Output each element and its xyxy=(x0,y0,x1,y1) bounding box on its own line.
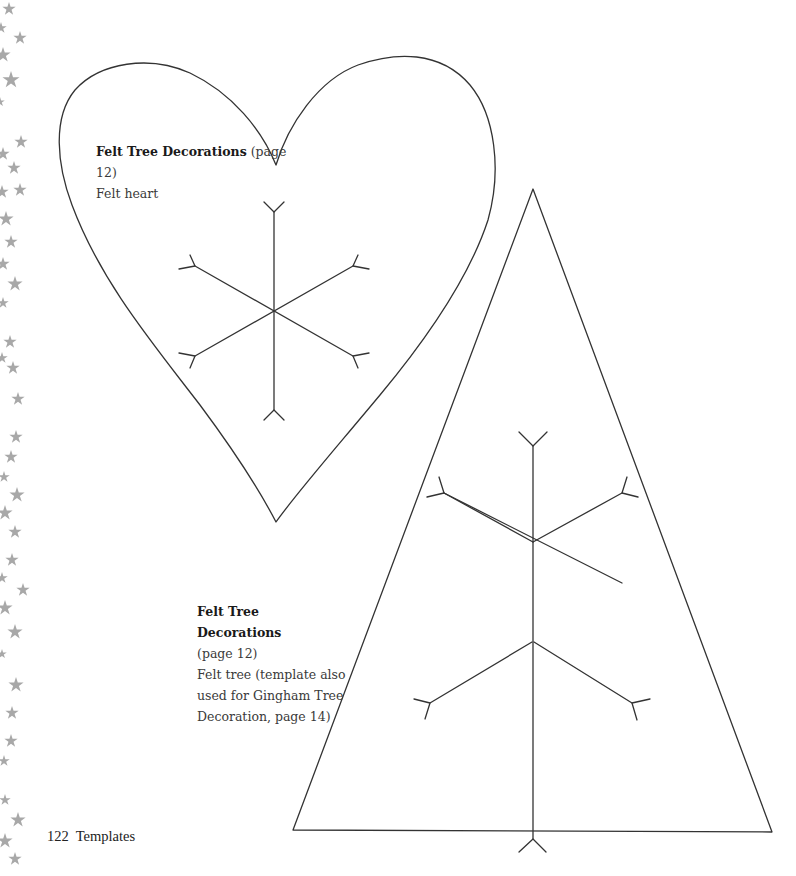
page-footer: 122 Templates xyxy=(47,828,135,845)
tree-caption-page-ref: (page 12) xyxy=(197,643,347,664)
tree-caption-description-line: Decoration, page 14) xyxy=(197,706,347,727)
heart-caption: Felt Tree Decorations (page 12) Felt hea… xyxy=(96,141,296,204)
heart-outline xyxy=(59,56,495,522)
tree-caption-description-line: Felt tree (template also xyxy=(197,664,347,685)
tree-caption: Felt Tree Decorations (page 12) Felt tre… xyxy=(197,601,347,727)
heart-caption-description: Felt heart xyxy=(96,183,296,204)
snowflake-icon xyxy=(414,432,650,852)
heart-caption-title: Felt Tree Decorations xyxy=(96,144,247,159)
snowflake-icon xyxy=(179,202,369,420)
template-drawings xyxy=(0,0,796,876)
tree-caption-title: Felt Tree Decorations xyxy=(197,601,347,643)
tree-caption-description-line: used for Gingham Tree xyxy=(197,685,347,706)
